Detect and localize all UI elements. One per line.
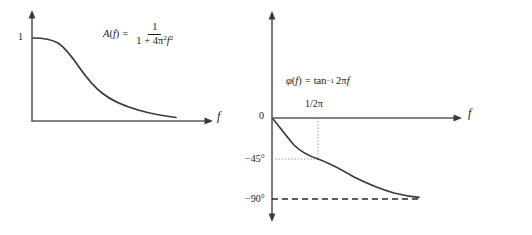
phase-formula: φ ( f ) = tan−1 2πf bbox=[286, 76, 350, 87]
phase-y-tick-label-minus45: −45° bbox=[245, 154, 265, 164]
amplitude-formula-numerator: 1 bbox=[148, 22, 161, 35]
amplitude-formula-fraction: 1 1 + 4π2f2 bbox=[132, 22, 177, 46]
phase-formula-fn: tan bbox=[314, 76, 327, 87]
phase-formula-equals: = bbox=[302, 76, 314, 87]
figure-svg bbox=[0, 0, 532, 235]
phase-x-tick-label-half-pi: 1/2π bbox=[305, 99, 323, 109]
phase-formula-coef: 2 bbox=[334, 76, 341, 87]
phase-curve bbox=[273, 119, 419, 197]
figure-container: 1 f A ( f ) = 1 1 + 4π2f2 0 1/2π −45° −9… bbox=[0, 0, 532, 235]
phase-x-axis-label: f bbox=[468, 107, 471, 119]
phase-y-tick-label-minus90: −90° bbox=[245, 194, 265, 204]
amplitude-y-tick-label: 1 bbox=[18, 32, 23, 42]
amplitude-formula-den-var-exp: 2 bbox=[170, 33, 174, 41]
phase-x-axis-arrowhead bbox=[454, 115, 463, 122]
phase-plot-group bbox=[269, 11, 462, 222]
amplitude-formula-equals: = bbox=[119, 29, 131, 40]
amplitude-formula-denominator: 1 + 4π2f2 bbox=[132, 35, 177, 47]
phase-formula-var: f bbox=[347, 76, 350, 87]
phase-y-axis-up-arrowhead bbox=[269, 11, 276, 20]
phase-origin-label: 0 bbox=[259, 111, 264, 121]
amplitude-x-axis-label: f bbox=[217, 110, 220, 122]
amplitude-y-axis-arrowhead bbox=[29, 10, 36, 19]
amplitude-formula: A ( f ) = 1 1 + 4π2f2 bbox=[103, 22, 178, 46]
amplitude-x-axis-arrowhead bbox=[205, 118, 214, 125]
phase-y-axis-down-arrowhead bbox=[269, 214, 276, 223]
amplitude-formula-den-lead: 1 + 4 bbox=[136, 35, 158, 46]
amplitude-curve bbox=[33, 38, 176, 118]
